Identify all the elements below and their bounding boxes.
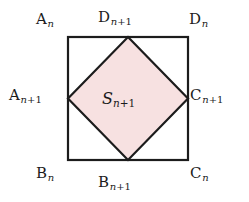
vertex-label-b-n-base: B bbox=[36, 164, 47, 182]
vertex-label-b-n: Bn bbox=[36, 166, 54, 183]
vertex-label-c-n-base: C bbox=[190, 164, 202, 182]
vertex-label-d-n-plus-1-sub: n+1 bbox=[110, 16, 132, 27]
subscript-suffix: +1 bbox=[116, 181, 131, 192]
vertex-label-c-n: Cn bbox=[190, 166, 209, 183]
vertex-label-d-n-plus-1: Dn+1 bbox=[98, 10, 132, 27]
geometry-figure: An Dn+1 Dn An+1 Cn+1 Bn Bn+1 Cn Sn+1 bbox=[0, 0, 249, 202]
vertex-label-c-n-plus-1-sub: n+1 bbox=[202, 94, 224, 105]
subscript-index: n bbox=[113, 97, 120, 109]
vertex-label-c-n-plus-1: Cn+1 bbox=[190, 88, 223, 105]
vertex-label-b-n-plus-1-base: B bbox=[98, 173, 109, 191]
vertex-label-d-n: Dn bbox=[189, 12, 208, 29]
vertex-label-b-n-sub: n bbox=[47, 172, 54, 183]
subscript-suffix: +1 bbox=[120, 97, 135, 109]
area-label-s-n-plus-1: Sn+1 bbox=[102, 89, 135, 109]
vertex-label-d-n-sub: n bbox=[201, 18, 208, 29]
subscript-suffix: +1 bbox=[209, 94, 224, 105]
vertex-label-b-n-plus-1: Bn+1 bbox=[98, 175, 131, 192]
vertex-label-a-n-plus-1: An+1 bbox=[9, 88, 42, 105]
area-label-sub: n+1 bbox=[113, 97, 135, 109]
vertex-label-a-n-plus-1-sub: n+1 bbox=[20, 94, 42, 105]
subscript-suffix: +1 bbox=[117, 16, 132, 27]
vertex-label-d-n-base: D bbox=[189, 10, 201, 28]
vertex-label-c-n-plus-1-base: C bbox=[190, 86, 202, 104]
subscript-suffix: +1 bbox=[27, 94, 42, 105]
vertex-label-d-n-plus-1-base: D bbox=[98, 8, 110, 26]
vertex-label-a-n: An bbox=[36, 12, 54, 29]
vertex-label-a-n-sub: n bbox=[47, 18, 54, 29]
vertex-label-a-n-base: A bbox=[36, 10, 47, 28]
area-label-base: S bbox=[102, 89, 113, 108]
vertex-label-b-n-plus-1-sub: n+1 bbox=[109, 181, 131, 192]
vertex-label-a-n-plus-1-base: A bbox=[9, 86, 20, 104]
vertex-label-c-n-sub: n bbox=[202, 172, 209, 183]
